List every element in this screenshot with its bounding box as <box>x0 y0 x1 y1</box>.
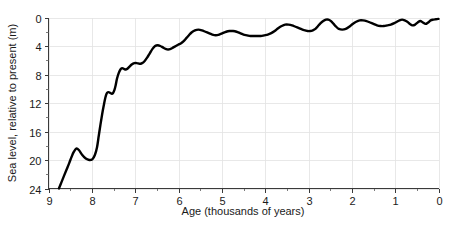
chart-canvas: 9876543210 04812162024 Age (thousands of… <box>0 0 455 228</box>
y-axis-ticks <box>45 19 49 190</box>
x-axis-title: Age (thousands of years) <box>182 205 305 217</box>
y-tick-label: 16 <box>29 127 41 139</box>
y-axis-title: Sea level, relative to present (m) <box>6 24 18 182</box>
x-tick-label: 0 <box>436 195 442 207</box>
sea-level-chart: 9876543210 04812162024 Age (thousands of… <box>0 0 455 228</box>
y-axis-tick-labels: 04812162024 <box>29 13 41 196</box>
axis-spines <box>49 18 439 189</box>
x-tick-label: 2 <box>349 195 355 207</box>
gridlines <box>49 18 440 190</box>
x-tick-label: 8 <box>89 195 95 207</box>
x-tick-label: 7 <box>132 195 138 207</box>
y-tick-label: 20 <box>29 155 41 167</box>
x-tick-label: 1 <box>392 195 398 207</box>
x-tick-label: 3 <box>306 195 312 207</box>
y-tick-label: 8 <box>35 70 41 82</box>
y-tick-label: 12 <box>29 98 41 110</box>
y-tick-label: 0 <box>35 13 41 25</box>
x-tick-label: 9 <box>46 195 52 207</box>
y-tick-label: 4 <box>35 41 41 53</box>
y-tick-label: 24 <box>29 184 41 196</box>
